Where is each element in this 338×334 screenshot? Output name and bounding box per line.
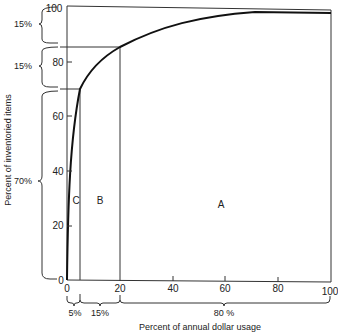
x-bracket-b-label: 15%: [91, 308, 109, 318]
y-tick-100: 100: [46, 3, 63, 14]
region-b-label: B: [97, 195, 104, 206]
x-brackets: [67, 294, 330, 306]
x-tick-0: 0: [64, 283, 70, 294]
x-bracket-c-label: 5%: [68, 308, 81, 318]
y-tick-20: 20: [52, 220, 64, 231]
y-tick-40: 40: [52, 166, 64, 177]
x-tick-40: 40: [167, 283, 179, 294]
x-tick-60: 60: [219, 283, 231, 294]
y-axis-title: Percent of inventoried items: [3, 94, 13, 206]
y-bracket-mid-label: 15%: [14, 61, 32, 71]
x-tick-20: 20: [114, 283, 126, 294]
x-tick-80: 80: [272, 283, 284, 294]
x-bracket-a-label: 80 %: [214, 308, 235, 318]
y-bracket-top-label: 15%: [14, 19, 32, 29]
x-tick-100: 100: [322, 286, 338, 297]
region-dividers: [60, 47, 120, 281]
abc-curve: [67, 12, 331, 280]
x-axis-title: Percent of annual dollar usage: [139, 322, 261, 332]
region-c-label: C: [72, 195, 79, 206]
y-bracket-bottom-label: 70%: [14, 176, 32, 186]
abc-chart: 100 80 60 40 20 0 0 20 40 60 80 100 C B …: [0, 0, 338, 334]
y-brackets: [38, 7, 58, 279]
region-a-label: A: [218, 199, 225, 210]
y-tick-60: 60: [52, 111, 64, 122]
y-tick-80: 80: [52, 57, 64, 68]
